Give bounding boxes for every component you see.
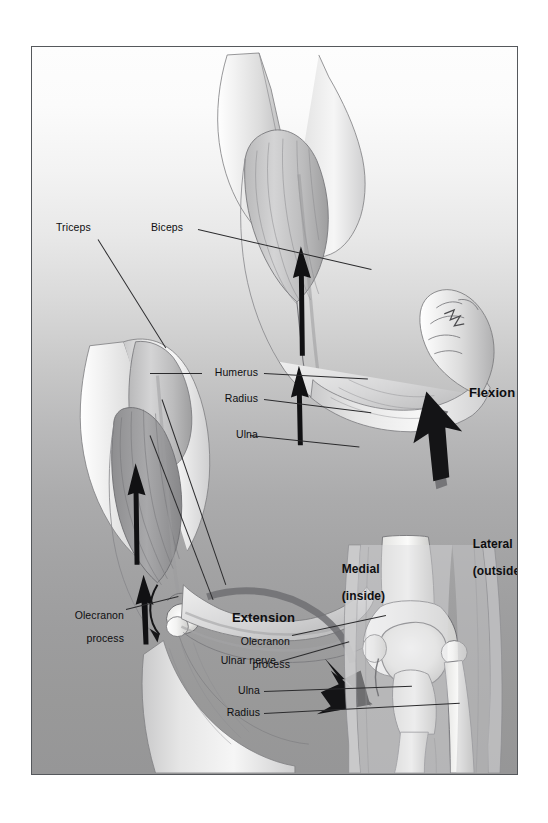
olecranon-line-2: process (87, 632, 124, 644)
label-flexion: Flexion (469, 387, 515, 399)
label-detail-olecranon-process: Olecranon process (206, 624, 290, 682)
illustration-plate: Triceps Biceps Humerus Radius Ulna Olecr… (31, 46, 518, 775)
label-detail-radius: Radius (192, 707, 260, 719)
lateral-line-1: Lateral (473, 537, 513, 551)
label-humerus: Humerus (172, 367, 258, 379)
label-triceps: Triceps (56, 222, 91, 234)
medial-line-2: (inside) (342, 589, 385, 603)
label-biceps: Biceps (151, 222, 183, 234)
label-extension: Extension (232, 612, 295, 624)
label-detail-ulnar-nerve: Ulnar nerve (198, 655, 276, 667)
label-olecranon-process-left: Olecranon process (40, 598, 124, 656)
upper-arm-flexed-figure (218, 53, 494, 445)
lateral-line-2: (outside) (473, 564, 518, 578)
olecranon-line-1: Olecranon (75, 609, 124, 621)
label-lateral: Lateral (outside) (459, 524, 518, 592)
label-detail-ulna: Ulna (198, 685, 260, 697)
label-medial: Medial (inside) (328, 549, 385, 617)
detail-olecranon-line-1: Olecranon (241, 635, 290, 647)
label-ulna: Ulna (192, 429, 258, 441)
label-radius: Radius (182, 393, 258, 405)
medial-line-1: Medial (342, 562, 380, 576)
